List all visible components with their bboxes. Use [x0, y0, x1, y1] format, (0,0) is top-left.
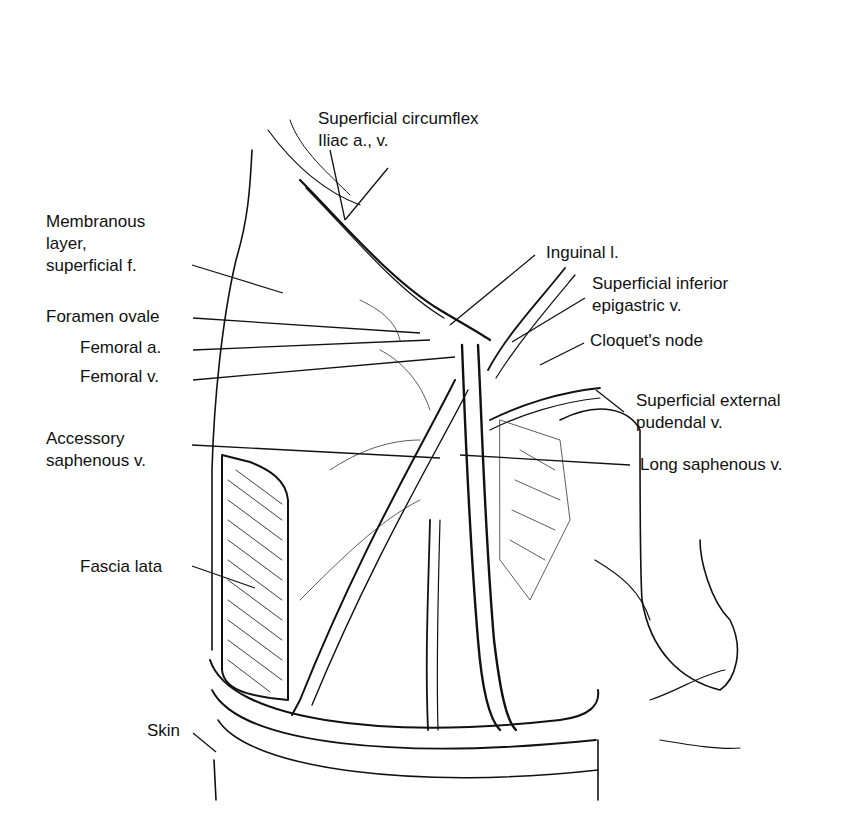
label-femoral-vein: Femoral v.: [80, 366, 159, 388]
label-femoral-artery: Femoral a.: [80, 337, 161, 359]
label-foramen-ovale: Foramen ovale: [46, 306, 159, 328]
label-fascia-lata: Fascia lata: [80, 556, 162, 578]
label-skin: Skin: [147, 720, 180, 742]
label-superficial-circumflex-iliac: Superficial circumflex Iliac a., v.: [318, 108, 479, 152]
anatomy-figure: Superficial circumflex Iliac a., v. Memb…: [0, 0, 846, 838]
label-accessory-saphenous: Accessory saphenous v.: [46, 428, 146, 472]
label-inguinal-ligament: Inguinal l.: [546, 242, 619, 264]
label-superficial-inferior-epigastric: Superficial inferior epigastric v.: [592, 273, 728, 317]
label-long-saphenous: Long saphenous v.: [640, 454, 782, 476]
label-cloquets-node: Cloquet's node: [590, 330, 703, 352]
label-superficial-external-pudendal: Superficial external pudendal v.: [636, 390, 781, 434]
label-membranous-layer: Membranous layer, superficial f.: [46, 211, 145, 277]
